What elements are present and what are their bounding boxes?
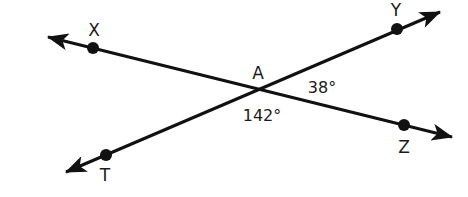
angle-142-label: 142° bbox=[243, 106, 282, 125]
point-y-dot bbox=[391, 23, 403, 35]
point-t-label: T bbox=[99, 165, 111, 185]
point-y-label: Y bbox=[390, 0, 402, 20]
point-t-dot bbox=[100, 149, 112, 161]
point-x-dot bbox=[87, 42, 99, 54]
angle-38-label: 38° bbox=[308, 78, 336, 97]
diagram-svg: X Y Z T A 38° 142° bbox=[0, 0, 468, 197]
line-ty bbox=[66, 12, 440, 172]
point-x-label: X bbox=[88, 20, 100, 40]
point-z-label: Z bbox=[398, 137, 410, 157]
intersection-a-label: A bbox=[252, 63, 264, 83]
angle-diagram: X Y Z T A 38° 142° bbox=[0, 0, 468, 197]
point-z-dot bbox=[398, 119, 410, 131]
